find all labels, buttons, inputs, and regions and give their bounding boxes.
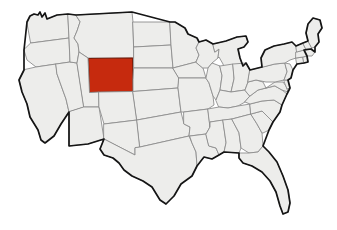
state-montana[interactable] [74,12,134,58]
state-north-dakota[interactable] [133,22,171,47]
state-washington[interactable] [27,12,69,43]
state-nebraska[interactable] [133,68,179,92]
state-wyoming-highlighted[interactable] [89,58,134,93]
state-colorado[interactable] [99,92,137,125]
state-florida[interactable] [239,146,290,214]
state-south-dakota[interactable] [134,45,173,68]
state-new-york[interactable] [261,42,300,67]
us-locator-map-figure [0,0,337,230]
state-texas[interactable] [100,136,197,204]
us-map-svg [0,0,337,230]
